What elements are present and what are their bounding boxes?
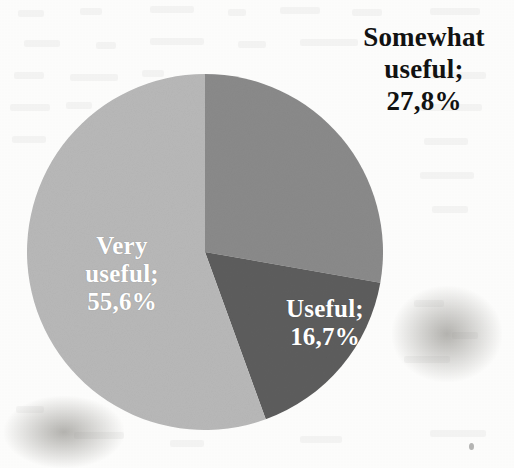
- pie-chart: Very useful; 55,6% Useful; 16,7% Somewha…: [0, 0, 514, 468]
- pie-label-useful: Useful; 16,7%: [252, 295, 398, 351]
- pie-label-very-useful: Very useful; 55,6%: [47, 232, 197, 316]
- pie-label-somewhat-useful: Somewhat useful; 27,8%: [338, 22, 510, 118]
- scan-speck: [469, 443, 474, 450]
